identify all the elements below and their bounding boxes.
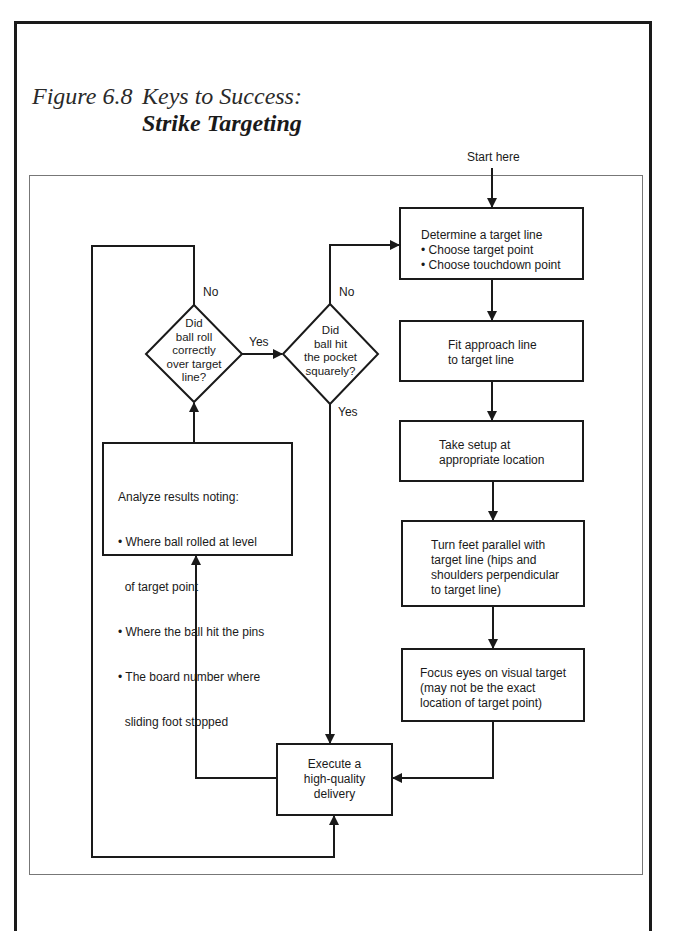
execute-text: Execute a high-quality delivery: [277, 757, 392, 802]
feet-line: shoulders perpendicular: [431, 568, 559, 583]
analyze-bullet: • Where ball rolled at level: [118, 535, 264, 550]
pocket-line: squarely?: [283, 365, 378, 379]
analyze-bullet: • The board number where: [118, 670, 264, 685]
analyze-bullet: sliding foot stopped: [118, 715, 264, 730]
fit-text: Fit approach line to target line: [448, 338, 537, 368]
pocket-line: the pocket: [283, 351, 378, 365]
pocket-yes-label: Yes: [338, 405, 358, 419]
setup-text: Take setup at appropriate location: [439, 438, 544, 468]
pocket-line: Did: [283, 324, 378, 338]
fit-line: to target line: [448, 353, 537, 368]
roll-line: ball roll: [146, 331, 242, 345]
roll-line: Did: [146, 317, 242, 331]
pocket-decision-text: Did ball hit the pocket squarely?: [283, 324, 378, 378]
setup-line: Take setup at: [439, 438, 544, 453]
determine-bullet: • Choose touchdown point: [421, 258, 561, 273]
focus-text: Focus eyes on visual target (may not be …: [420, 666, 566, 711]
fit-line: Fit approach line: [448, 338, 537, 353]
focus-line: Focus eyes on visual target: [420, 666, 566, 681]
feet-line: to target line): [431, 583, 559, 598]
execute-line: delivery: [277, 787, 392, 802]
roll-decision-text: Did ball roll correctly over target line…: [146, 317, 242, 385]
setup-line: appropriate location: [439, 453, 544, 468]
pocket-no-label: No: [339, 285, 354, 299]
focus-line: location of target point): [420, 696, 566, 711]
analyze-text: Analyze results noting: • Where ball rol…: [118, 460, 264, 745]
roll-line: over target: [146, 358, 242, 372]
roll-yes-label: Yes: [249, 335, 269, 349]
analyze-bullet: • Where the ball hit the pins: [118, 625, 264, 640]
roll-line: correctly: [146, 344, 242, 358]
start-label: Start here: [467, 150, 520, 164]
analyze-heading: Analyze results noting:: [118, 490, 264, 505]
feet-line: target line (hips and: [431, 553, 559, 568]
analyze-bullet: of target point: [118, 580, 264, 595]
feet-line: Turn feet parallel with: [431, 538, 559, 553]
feet-text: Turn feet parallel with target line (hip…: [431, 538, 559, 598]
roll-no-label: No: [203, 285, 218, 299]
pocket-line: ball hit: [283, 338, 378, 352]
execute-line: high-quality: [277, 772, 392, 787]
focus-line: (may not be the exact: [420, 681, 566, 696]
execute-line: Execute a: [277, 757, 392, 772]
determine-bullet: • Choose target point: [421, 243, 561, 258]
determine-text: Determine a target line • Choose target …: [421, 228, 561, 273]
determine-heading: Determine a target line: [421, 228, 561, 243]
roll-line: line?: [146, 371, 242, 385]
